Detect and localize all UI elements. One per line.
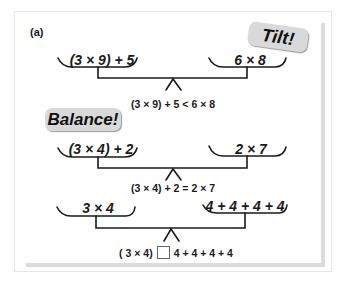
empty-box-icon <box>157 246 170 259</box>
scale-3-equation-left: ( 3 × 4) <box>119 247 153 259</box>
scale-3-right-pan: 4 + 4 + 4 + 4 <box>203 198 287 214</box>
scale-3-equation: ( 3 × 4)4 + 4 + 4 + 4 <box>116 246 236 259</box>
scale-3-equation-right: 4 + 4 + 4 + 4 <box>174 247 233 259</box>
scale-2-equation: (3 × 4) + 2 = 2 × 7 <box>120 182 226 194</box>
scale-2-right-pan: 2 × 7 <box>226 141 276 157</box>
scale-1-right-pan: 6 × 8 <box>225 52 275 68</box>
balance-badge: Balance! <box>45 108 121 131</box>
scale-1-left-pan: (3 × 9) + 5 <box>68 52 136 68</box>
scale-3-left-pan: 3 × 4 <box>78 200 118 216</box>
scale-1-equation: (3 × 9) + 5 < 6 × 8 <box>120 98 226 110</box>
scale-2-left-pan: (3 × 4) + 2 <box>66 141 136 157</box>
